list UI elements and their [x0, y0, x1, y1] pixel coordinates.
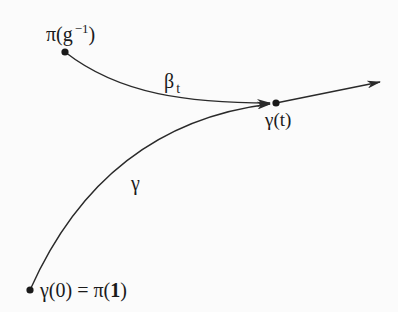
label-gamma-0-lhs: γ(0) = π( — [40, 279, 110, 301]
label-gamma-text: γ — [131, 172, 140, 194]
label-pi-g-sup: −1 — [75, 21, 89, 36]
label-gamma-0-rhs: ) — [120, 279, 127, 301]
diagram-canvas — [0, 0, 398, 312]
point-gamma-0 — [26, 286, 33, 293]
label-gamma-t: γ(t) — [265, 110, 291, 129]
label-beta-sub: t — [176, 81, 180, 96]
label-gamma-0: γ(0) = π(1) — [40, 280, 127, 300]
label-gamma-0-bold: 1 — [110, 279, 120, 301]
tangent-arrow — [276, 82, 380, 103]
label-beta-t: βt — [164, 71, 180, 91]
label-gamma: γ — [131, 173, 140, 193]
label-pi-g-inverse: π(g−1) — [46, 24, 95, 44]
label-pi-g-close: ) — [89, 23, 96, 45]
label-beta-main: β — [164, 70, 174, 92]
label-gamma-t-text: γ(t) — [265, 109, 291, 130]
gamma-curve — [30, 104, 270, 290]
point-gamma-t — [272, 99, 279, 106]
point-pi-g-inverse — [61, 48, 68, 55]
label-pi-g-main: π(g — [46, 23, 73, 45]
